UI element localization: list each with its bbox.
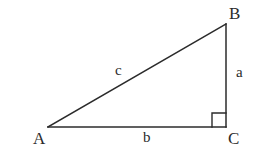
side-label-b: b xyxy=(143,130,151,145)
vertex-label-a: A xyxy=(33,130,45,147)
vertex-label-c: C xyxy=(228,130,239,147)
right-angle-marker-icon xyxy=(212,113,226,127)
side-label-a: a xyxy=(236,65,243,80)
geometry-diagram: A B C a b c xyxy=(0,0,266,153)
triangle-side-c-hypotenuse xyxy=(48,24,226,127)
side-label-c: c xyxy=(115,63,122,78)
vertex-label-b: B xyxy=(229,5,240,22)
